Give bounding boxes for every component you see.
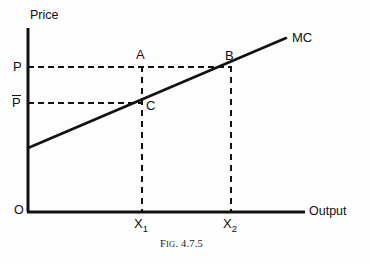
x-tick-label-x2-base: X	[223, 216, 232, 231]
y-tick-label-pbar-text: P	[12, 96, 21, 109]
y-tick-label-pbar: P	[12, 96, 21, 109]
point-label-c: C	[146, 99, 155, 112]
x-tick-label-x1-base: X	[134, 216, 143, 231]
x-tick-label-x2-sub: 2	[232, 223, 237, 234]
point-label-a: A	[136, 48, 145, 61]
mc-curve	[28, 38, 286, 148]
y-tick-label-p: P	[13, 60, 22, 73]
figure-caption-number: . 4.7.5	[175, 238, 203, 249]
economics-diagram	[0, 0, 370, 264]
x-axis-label: Output	[309, 205, 347, 218]
point-label-b: B	[225, 49, 234, 62]
mc-curve-label: MC	[292, 31, 312, 44]
origin-label: O	[14, 204, 24, 217]
figure-caption: FIG. 4.7.5	[160, 238, 203, 249]
y-axis-label: Price	[30, 9, 58, 22]
x-tick-label-x1-sub: 1	[143, 223, 148, 234]
figure-container: Price Output O P P X1 X2 A B C MC FIG. 4…	[0, 0, 370, 264]
x-tick-label-x2: X2	[223, 217, 237, 233]
x-tick-label-x1: X1	[134, 217, 148, 233]
